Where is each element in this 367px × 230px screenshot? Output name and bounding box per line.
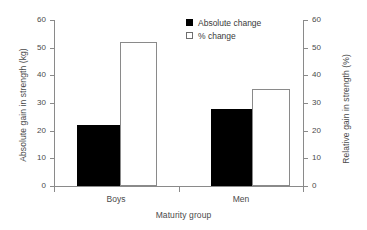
y-axis-right-tick-label: 10 — [312, 154, 330, 162]
y-axis-left-tick-label: 40 — [28, 71, 46, 79]
y-axis-right-tick — [304, 131, 308, 132]
y-axis-right-tick — [304, 48, 308, 49]
y-axis-left-tick-label: 0 — [28, 182, 46, 190]
bar-boys-percent-change — [120, 42, 157, 186]
plot-area: 0102030405060 0102030405060 BoysMen — [54, 20, 304, 187]
y-axis-left-tick-label: 10 — [28, 154, 46, 162]
x-axis-category-label: Men — [201, 194, 281, 204]
y-axis-left-tick-label: 20 — [28, 127, 46, 135]
x-axis-tick — [179, 187, 180, 192]
y-axis-right-tick-label: 60 — [312, 16, 330, 24]
y-axis-right-tick — [304, 186, 308, 187]
y-axis-left-tick — [50, 158, 54, 159]
y-axis-left-line — [54, 20, 55, 187]
y-axis-left-title: Absolute gain in strength (kg) — [18, 35, 28, 175]
y-axis-right-tick — [304, 20, 308, 21]
y-axis-left-tick — [50, 131, 54, 132]
y-axis-left-tick-label: 30 — [28, 99, 46, 107]
y-axis-left-tick — [50, 20, 54, 21]
x-axis-tick — [303, 187, 304, 192]
y-axis-right-tick-label: 20 — [312, 127, 330, 135]
x-axis-tick — [54, 187, 55, 192]
y-axis-left-tick — [50, 75, 54, 76]
y-axis-left-tick — [50, 103, 54, 104]
y-axis-right-title: Relative gain in strength (%) — [341, 39, 351, 179]
y-axis-right-tick-label: 30 — [312, 99, 330, 107]
x-axis-title: Maturity group — [0, 210, 367, 220]
y-axis-right-tick — [304, 103, 308, 104]
bar-men-absolute-change — [211, 109, 252, 186]
y-axis-right-tick-label: 50 — [312, 44, 330, 52]
y-axis-right-tick — [304, 75, 308, 76]
y-axis-right-tick-label: 40 — [312, 71, 330, 79]
bar-men-percent-change — [252, 89, 290, 186]
y-axis-right-tick-label: 0 — [312, 182, 330, 190]
x-axis-category-label: Boys — [76, 194, 156, 204]
y-axis-left-tick-label: 60 — [28, 16, 46, 24]
y-axis-right-tick — [304, 158, 308, 159]
chart-container: Absolute gain in strength (kg) Relative … — [0, 0, 367, 230]
bar-boys-absolute-change — [77, 125, 120, 186]
y-axis-left-tick-label: 50 — [28, 44, 46, 52]
y-axis-left-tick — [50, 48, 54, 49]
